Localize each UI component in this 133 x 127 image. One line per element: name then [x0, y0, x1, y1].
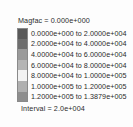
legend-range-label: 2.0000e+004to4.0000e+004 [28, 39, 127, 48]
legend-band-row: 8.0000e+004to1.0000e+005 [17, 70, 129, 81]
legend-range-high: 1.3879e+005 [84, 92, 127, 101]
legend-band-row: 0.0000e+000to2.0000e+004 [17, 28, 129, 39]
legend-range-separator: to [74, 61, 84, 70]
legend-range-separator: to [74, 39, 84, 48]
legend-band-row: 4.0000e+004to6.0000e+004 [17, 49, 129, 60]
legend-range-separator: to [74, 29, 84, 38]
legend-range-label: 1.2000e+005to1.3879e+005 [28, 92, 127, 101]
legend-color-swatch [17, 49, 28, 60]
legend-color-swatch [17, 39, 28, 50]
legend-range-high: 1.2000e+005 [84, 82, 127, 91]
legend-range-high: 2.0000e+004 [84, 29, 127, 38]
legend-color-swatch [17, 70, 28, 81]
legend-range-low: 4.0000e+004 [31, 50, 74, 59]
legend-band-list: 0.0000e+000to2.0000e+0042.0000e+004to4.0… [17, 28, 129, 102]
legend-range-high: 8.0000e+004 [84, 61, 127, 70]
legend-range-separator: to [74, 92, 84, 101]
legend-color-swatch [17, 92, 28, 103]
legend-range-label: 1.0000e+005to1.2000e+005 [28, 82, 127, 91]
legend-range-low: 2.0000e+004 [31, 39, 74, 48]
legend-range-label: 4.0000e+004to6.0000e+004 [28, 50, 127, 59]
legend-range-low: 0.0000e+000 [31, 29, 74, 38]
legend-range-high: 4.0000e+004 [84, 39, 127, 48]
legend-range-label: 0.0000e+000to2.0000e+004 [28, 29, 127, 38]
legend-color-swatch [17, 60, 28, 71]
legend-range-low: 6.0000e+004 [31, 61, 74, 70]
legend-range-separator: to [74, 82, 84, 91]
legend-range-separator: to [74, 50, 84, 59]
legend-range-separator: to [74, 71, 84, 80]
legend-range-low: 1.0000e+005 [31, 82, 74, 91]
colorbar-legend: Magfac = 0.000e+000 0.0000e+000to2.0000e… [0, 0, 133, 127]
legend-range-high: 6.0000e+004 [84, 50, 127, 59]
legend-band-row: 1.2000e+005to1.3879e+005 [17, 92, 129, 103]
legend-band-row: 6.0000e+004to8.0000e+004 [17, 60, 129, 71]
magfac-label: Magfac = 0.000e+000 [18, 16, 90, 25]
legend-band-row: 1.0000e+005to1.2000e+005 [17, 81, 129, 92]
legend-band-row: 2.0000e+004to4.0000e+004 [17, 39, 129, 50]
legend-color-swatch [17, 28, 28, 39]
legend-range-low: 8.0000e+004 [31, 71, 74, 80]
legend-range-label: 6.0000e+004to8.0000e+004 [28, 61, 127, 70]
legend-range-low: 1.2000e+005 [31, 92, 74, 101]
legend-range-high: 1.0000e+005 [84, 71, 127, 80]
legend-range-label: 8.0000e+004to1.0000e+005 [28, 71, 127, 80]
interval-label: Interval = 2.0e+004 [21, 104, 85, 113]
legend-color-swatch [17, 81, 28, 92]
